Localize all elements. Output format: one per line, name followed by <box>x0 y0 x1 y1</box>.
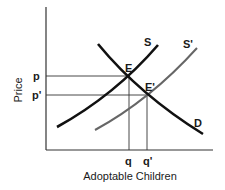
supply-demand-diagram: Price p p' q q' Adoptable Children S S' … <box>0 0 225 190</box>
tick-q: q <box>125 155 132 167</box>
supply-curve <box>57 45 158 127</box>
label-D: D <box>194 117 202 129</box>
x-axis-label: Adoptable Children <box>83 170 177 182</box>
y-axis-label: Price <box>12 77 24 102</box>
tick-p: p <box>33 70 40 82</box>
label-S-prime: S' <box>183 38 193 50</box>
label-E-prime: E' <box>145 81 155 93</box>
tick-q-prime: q' <box>143 155 153 167</box>
label-E: E <box>125 62 132 74</box>
label-S: S <box>144 36 151 48</box>
tick-p-prime: p' <box>32 89 42 101</box>
